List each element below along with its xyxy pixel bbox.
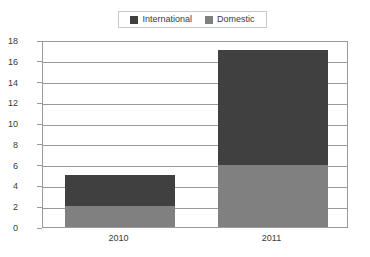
- legend-item-domestic: Domestic: [205, 15, 255, 24]
- y-axis-tick-label: 18: [0, 37, 18, 46]
- bar-segment-international[interactable]: [218, 50, 328, 164]
- legend-label-domestic: Domestic: [217, 15, 255, 24]
- chart-legend: International Domestic: [118, 11, 267, 28]
- x-axis-tick-label: 2010: [108, 234, 128, 243]
- legend-label-international: International: [142, 15, 192, 24]
- y-axis-tick-label: 10: [0, 120, 18, 129]
- stacked-bar-chart: International Domestic 024681012141618 2…: [0, 0, 370, 257]
- bar-segment-domestic[interactable]: [65, 206, 175, 227]
- plot-frame: [42, 41, 348, 228]
- y-axis-tick-label: 0: [0, 224, 18, 233]
- x-axis-tick-label: 2011: [262, 234, 281, 243]
- y-axis-tick-label: 4: [0, 182, 18, 191]
- legend-swatch-domestic: [205, 16, 213, 24]
- y-axis-tick-label: 14: [0, 78, 18, 87]
- y-axis-tick-label: 8: [0, 140, 18, 149]
- bar-stack[interactable]: [65, 175, 175, 227]
- y-axis-tick-label: 16: [0, 57, 18, 66]
- plot-area: [43, 42, 347, 227]
- legend-item-international: International: [130, 15, 192, 24]
- y-axis-tick-label: 6: [0, 161, 18, 170]
- bar-stack[interactable]: [218, 50, 328, 227]
- bar-segment-domestic[interactable]: [218, 165, 328, 227]
- y-axis-tick-label: 12: [0, 99, 18, 108]
- bar-segment-international[interactable]: [65, 175, 175, 206]
- legend-swatch-international: [130, 16, 138, 24]
- y-axis-tick-label: 2: [0, 203, 18, 212]
